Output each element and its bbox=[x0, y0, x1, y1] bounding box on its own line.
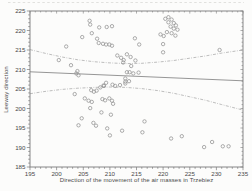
data-point bbox=[125, 53, 128, 56]
data-point bbox=[176, 28, 179, 31]
data-point bbox=[83, 97, 86, 100]
data-point bbox=[218, 48, 221, 51]
data-point bbox=[221, 145, 224, 148]
x-tick-label: 195 bbox=[25, 170, 36, 177]
data-point bbox=[94, 124, 97, 127]
data-point bbox=[141, 131, 144, 134]
y-tick-label: 185 bbox=[15, 163, 26, 170]
data-point bbox=[92, 121, 95, 124]
y-tick-label: 210 bbox=[15, 66, 26, 73]
data-point bbox=[161, 42, 164, 45]
data-point bbox=[110, 25, 113, 28]
data-point bbox=[169, 25, 172, 28]
data-point bbox=[227, 145, 230, 148]
lower-confidence-band bbox=[30, 87, 243, 110]
data-point bbox=[165, 30, 168, 33]
data-point bbox=[170, 32, 173, 35]
data-point bbox=[69, 63, 72, 66]
data-point bbox=[162, 34, 165, 37]
data-point bbox=[105, 25, 108, 28]
data-point bbox=[77, 124, 80, 127]
y-tick-label: 220 bbox=[15, 27, 26, 34]
x-tick-label: 230 bbox=[211, 170, 222, 177]
data-point bbox=[138, 43, 141, 46]
data-point bbox=[202, 145, 205, 148]
y-tick-label: 195 bbox=[15, 124, 26, 131]
data-point bbox=[97, 41, 100, 44]
data-point bbox=[130, 64, 133, 67]
y-tick-label: 200 bbox=[15, 105, 26, 112]
data-point bbox=[127, 80, 130, 83]
data-point bbox=[73, 92, 76, 95]
data-point bbox=[65, 45, 68, 48]
data-point bbox=[81, 35, 84, 38]
x-tick-label: 215 bbox=[131, 170, 142, 177]
data-point bbox=[89, 23, 92, 26]
data-point bbox=[95, 37, 98, 40]
data-point bbox=[129, 55, 132, 58]
data-point bbox=[98, 26, 101, 29]
data-point bbox=[133, 37, 136, 40]
data-point bbox=[161, 51, 164, 54]
data-point bbox=[134, 59, 137, 62]
regression-line bbox=[30, 72, 243, 81]
x-tick-label: 235 bbox=[238, 170, 249, 177]
data-point bbox=[100, 111, 103, 114]
data-point bbox=[90, 32, 93, 35]
x-tick-label: 225 bbox=[185, 170, 196, 177]
data-point bbox=[167, 21, 170, 24]
data-point bbox=[80, 117, 83, 120]
data-point bbox=[143, 120, 146, 123]
data-point bbox=[106, 127, 109, 130]
x-tick-label: 210 bbox=[105, 170, 116, 177]
data-point bbox=[164, 17, 167, 20]
data-point bbox=[132, 72, 135, 75]
y-tick-label: 190 bbox=[15, 144, 26, 151]
x-tick-label: 200 bbox=[51, 170, 62, 177]
data-point bbox=[210, 140, 213, 143]
scatter-plot: 1952002052102152202252302351851901952002… bbox=[0, 0, 252, 191]
data-point bbox=[90, 100, 93, 103]
data-point bbox=[180, 135, 183, 138]
data-point bbox=[109, 113, 112, 116]
x-tick-label: 220 bbox=[158, 170, 169, 177]
y-tick-label: 225 bbox=[15, 7, 26, 14]
data-point bbox=[57, 58, 60, 61]
data-point bbox=[172, 27, 175, 30]
figure-canvas: 1952002052102152202252302351851901952002… bbox=[0, 0, 252, 191]
data-point bbox=[89, 106, 92, 109]
data-point bbox=[111, 102, 114, 105]
data-point bbox=[137, 71, 140, 74]
data-point bbox=[88, 19, 91, 22]
y-axis-label: Leeway direction bbox=[3, 50, 12, 130]
y-tick-label: 215 bbox=[15, 46, 26, 53]
data-point bbox=[174, 34, 177, 37]
x-axis-label: Direction of the movement of the air mas… bbox=[30, 177, 243, 183]
y-tick-label: 205 bbox=[15, 85, 26, 92]
data-point bbox=[108, 134, 111, 137]
data-point bbox=[170, 18, 173, 21]
data-point bbox=[118, 83, 121, 86]
data-point bbox=[120, 129, 123, 132]
data-point bbox=[174, 24, 177, 27]
data-point bbox=[169, 137, 172, 140]
x-tick-label: 205 bbox=[78, 170, 89, 177]
data-point bbox=[116, 54, 119, 57]
